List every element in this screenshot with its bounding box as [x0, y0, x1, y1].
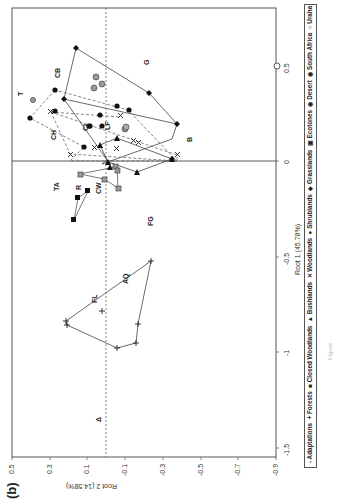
root2-tick--0.5: -0.5 [197, 464, 204, 476]
legend-uraha: ○ Uraha [306, 6, 313, 29]
label-ta: TA [53, 182, 60, 191]
root1-tick--0.5: -0.5 [283, 253, 290, 265]
legend-desert: ◉ Desert [306, 80, 313, 106]
legend-forests: + Forests [306, 391, 313, 419]
desert-points [30, 74, 128, 132]
label-fl: FL [91, 294, 98, 303]
label-ci: CI [82, 124, 89, 131]
legend-closed-woodlands: ■ Closed Woodlands [306, 326, 313, 388]
label-lf: LF [104, 121, 111, 130]
legend-woodlands: ✕ Woodlands [306, 238, 313, 279]
label-g: G [143, 60, 150, 65]
root1-tick-0: 0 [283, 160, 290, 164]
legend-text: - Adaptations + Forests ■ Closed Woodlan… [306, 6, 313, 463]
label-ch: CH [50, 130, 57, 140]
forests-hull [66, 261, 151, 348]
label-a: Δ [95, 417, 102, 422]
label-cb: CB [54, 68, 61, 78]
figure-caption: Figure ... [327, 336, 333, 360]
legend-ecotones: ▣ Ecotones [306, 110, 313, 146]
scatter-plot [0, 0, 339, 500]
root2-tick-0.5: 0.5 [8, 464, 15, 474]
root2-tick--0.7: -0.7 [234, 464, 241, 476]
root1-tick--1.5: -1.5 [283, 444, 290, 456]
label-aq: AQ [122, 274, 129, 285]
label-fg: FG [147, 216, 154, 226]
legend-bushlands: ▲ Bushlands [306, 282, 313, 322]
legend-adaptations: - Adaptations [306, 423, 313, 463]
label-r: R [75, 185, 82, 190]
root2-tick--0.9: -0.9 [272, 464, 279, 476]
forests-points [63, 258, 154, 351]
root2-tick--0.3: -0.3 [159, 464, 166, 476]
label-cw: CW [95, 182, 102, 194]
root2-axis-label: Root 2 (14.58%) [66, 483, 117, 490]
legend-shrublands: ● Shrublands [306, 194, 313, 234]
legend-grasslands: ◆ Grasslands [306, 150, 313, 191]
root2-tick-0.3: 0.3 [46, 464, 53, 474]
uraha-point [274, 63, 280, 69]
plot-frame [12, 8, 276, 457]
panel-label: (b) [4, 482, 19, 499]
root1-tick-0.5: 0.5 [283, 63, 290, 73]
label-b: B [186, 137, 193, 142]
grasslands-points [61, 45, 180, 162]
root2-tick--0.1: -0.1 [121, 464, 128, 476]
south-africa-point [123, 124, 129, 130]
legend-south-africa: ◉ South Africa [306, 33, 313, 77]
root2-tick-0.1: 0.1 [83, 464, 90, 474]
label-t: T [17, 92, 24, 96]
root1-tick--1: -1 [283, 350, 290, 356]
root1-axis-label: Root 1 (45.78%) [294, 224, 301, 275]
grasslands-hull [64, 48, 177, 164]
